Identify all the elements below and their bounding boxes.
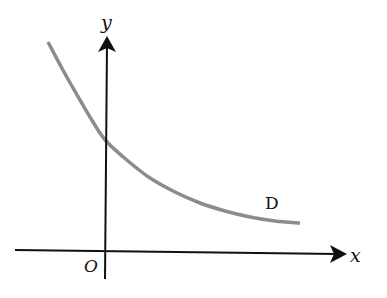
graph-svg: y x O D [0,0,387,298]
curve-d [48,42,300,223]
y-axis [105,45,107,279]
diagram-canvas: y x O D [0,0,387,298]
origin-label: O [84,256,98,276]
x-axis [15,250,338,254]
y-axis-label: y [100,11,112,33]
x-axis-label: x [350,244,361,266]
curve-label: D [265,193,279,213]
